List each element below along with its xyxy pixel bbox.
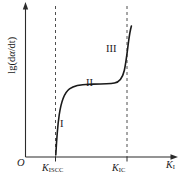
kic-subscript: IC <box>119 166 126 173</box>
x-axis-label: KI <box>166 160 175 171</box>
y-axis-label-alpha: α <box>6 51 17 57</box>
kiscc-subscript: ISCC <box>49 166 64 173</box>
kiscc-symbol: K <box>42 162 49 173</box>
region-label-ii: II <box>86 78 93 89</box>
y-axis-label-suffix: /dt) <box>6 37 17 52</box>
region-label-i: I <box>60 119 64 130</box>
y-axis-label: lg(dα/dt) <box>7 25 18 85</box>
origin-label: O <box>17 158 25 169</box>
plot-area <box>0 0 183 184</box>
x-tick-label-kiscc: KISCC <box>42 163 64 174</box>
x-axis-symbol: K <box>166 159 173 170</box>
y-axis-label-prefix: lg(d <box>6 57 17 74</box>
y-axis <box>23 2 28 157</box>
x-axis <box>26 154 179 159</box>
crack-growth-curve <box>56 26 132 155</box>
region-label-iii: III <box>106 44 117 55</box>
x-axis-subscript: I <box>173 163 175 170</box>
scc-crack-growth-figure: lg(dα/dt) O KISCC KIC KI I II III <box>0 0 183 184</box>
kic-symbol: K <box>112 162 119 173</box>
x-tick-label-kic: KIC <box>112 163 125 174</box>
